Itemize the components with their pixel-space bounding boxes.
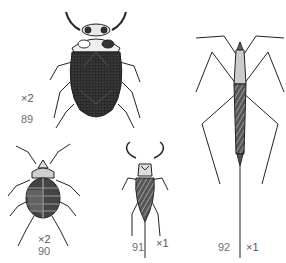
figure-92-magnification: ×1: [246, 242, 259, 253]
figure-90-magnification: ×2: [38, 234, 51, 245]
figure-89-insect: [50, 12, 140, 128]
figure-90-insect: [8, 144, 80, 246]
figure-90-number: 90: [38, 246, 50, 257]
figure-89-magnification: ×2: [21, 93, 34, 104]
illustration-plate: ×2 89 ×2 90 91 ×1 92 ×1: [0, 0, 286, 263]
figure-92-insect: [196, 36, 284, 258]
figure-91-magnification: ×1: [156, 238, 169, 249]
figure-89-number: 89: [21, 114, 33, 125]
figure-92-number: 92: [218, 242, 230, 253]
figure-91-number: 91: [132, 242, 144, 253]
insect-drawings: [0, 0, 286, 263]
